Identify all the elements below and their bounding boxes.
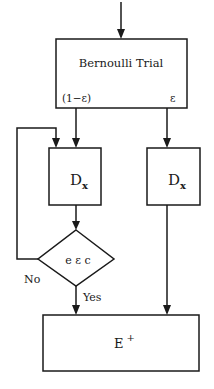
dx-to-decision-arrow (72, 205, 80, 230)
flowchart-canvas: Bernoulli Trial (1−ε) ε Dx Dx e ε c No Y… (0, 0, 214, 389)
bernoulli-right-prob: ε (170, 92, 175, 104)
bernoulli-left-prob: (1−ε) (62, 92, 91, 104)
yes-label: Yes (82, 291, 102, 304)
dx-left-label: Dx (70, 171, 89, 191)
left-branch-arrow (72, 108, 80, 148)
dx-right-label: Dx (168, 171, 187, 191)
decision-label: e ε c (65, 254, 90, 267)
right-branch-arrow (163, 108, 171, 148)
yes-arrow (72, 286, 80, 315)
dx-right-to-eplus-arrow (163, 205, 171, 315)
entry-arrow (117, 2, 125, 39)
bernoulli-trial-label: Bernoulli Trial (79, 56, 164, 70)
no-label: No (24, 273, 41, 286)
eplus-label: E+ (114, 332, 135, 351)
